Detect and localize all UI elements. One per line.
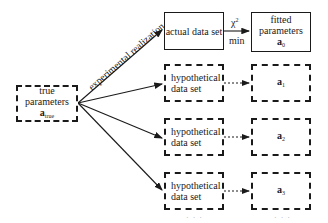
data-set-label: data set (171, 83, 201, 94)
a2-symbol: a2 (277, 130, 285, 145)
chi-squared-label: χ2 (231, 15, 238, 28)
a3-box: a3 (251, 172, 311, 210)
hypothetical-label: hypothetical (171, 126, 220, 137)
true-parameters-label: true parameters (18, 85, 76, 107)
a-true-symbol: atrue (40, 107, 54, 122)
continuation-dots-left: · · · (186, 213, 203, 222)
hypothetical-data-set-box-2: hypothetical data set (164, 118, 224, 156)
parameters-label: parameters (259, 25, 303, 36)
continuation-dots-right: · · · (274, 213, 291, 222)
a1-box: a1 (251, 64, 311, 102)
hypothetical-label: hypothetical (171, 180, 220, 191)
actual-data-set-box: actual data set (164, 12, 224, 50)
actual-data-set-label: actual data set (166, 26, 223, 37)
data-set-label: data set (171, 137, 201, 148)
hypothetical-data-set-box-3: hypothetical data set (164, 172, 224, 210)
a1-symbol: a1 (277, 76, 285, 91)
min-label: min (229, 36, 245, 46)
a3-symbol: a3 (277, 184, 285, 199)
hypothetical-data-set-box-1: hypothetical data set (164, 64, 224, 102)
true-parameters-box: true parameters atrue (16, 85, 78, 122)
fitted-parameters-box: fitted parameters a0 (251, 12, 311, 52)
data-set-label: data set (171, 191, 201, 202)
fitted-label: fitted (270, 14, 291, 25)
a2-box: a2 (251, 118, 311, 156)
a0-symbol: a0 (277, 36, 285, 51)
hypothetical-label: hypothetical (171, 72, 220, 83)
